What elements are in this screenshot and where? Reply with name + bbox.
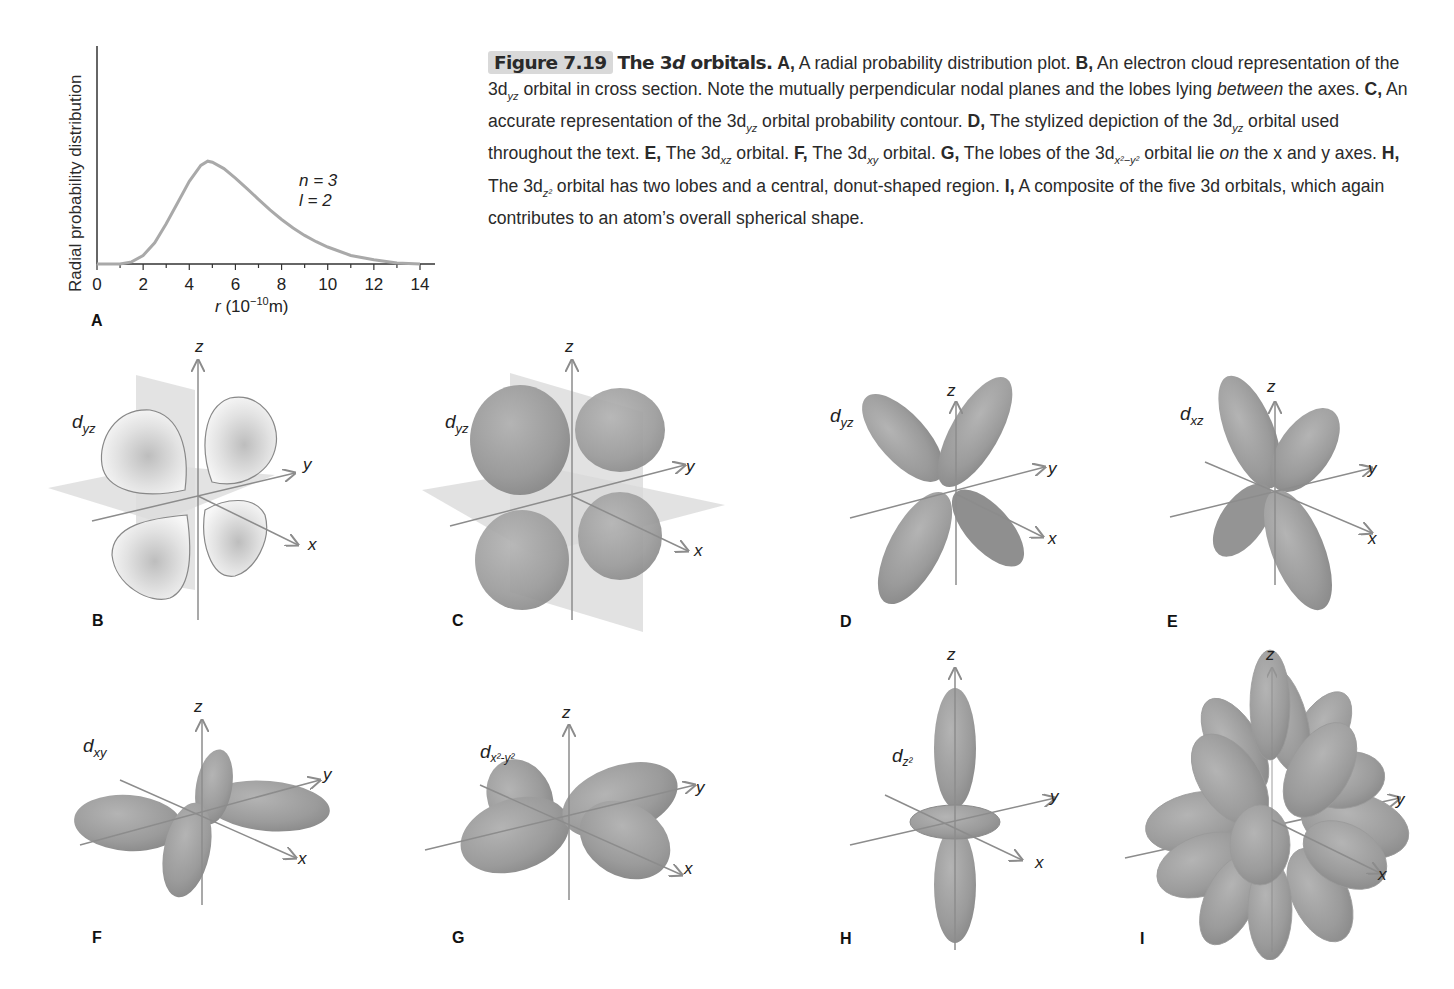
panel-label-a: A (91, 312, 103, 329)
panel-i-composite: z y x I (1120, 640, 1430, 960)
lobe-lower-right (204, 500, 267, 576)
y-axis-label: y (1049, 787, 1060, 806)
svg-text:14: 14 (411, 275, 430, 294)
panel-b-electron-cloud: z y x dyz B (40, 330, 400, 640)
z-axis-label: z (946, 645, 956, 664)
x-axis-label: x (307, 535, 317, 554)
panel-label-e: E (1167, 613, 1178, 630)
distribution-curve (97, 161, 420, 264)
svg-text:10: 10 (318, 275, 337, 294)
figure-number: Figure 7.19 (488, 51, 613, 74)
svg-text:0: 0 (92, 275, 101, 294)
panel-label-f: F (92, 929, 102, 946)
panel-h-dz2: z y x dz² H (820, 640, 1080, 960)
orbital-label: dz² (892, 745, 914, 769)
radial-distribution-chart: Radial probability distribution 02468101… (55, 40, 455, 330)
y-axis-label: y (1395, 790, 1406, 809)
caption-body: A, A radial probability distribution plo… (488, 53, 1408, 228)
z-axis-label: z (946, 381, 956, 400)
svg-text:2: 2 (138, 275, 147, 294)
lobe-lower-left (475, 510, 569, 610)
panel-label-g: G (452, 929, 464, 946)
svg-text:8: 8 (277, 275, 286, 294)
panel-e-dxz: z y x dxz E (1140, 370, 1420, 640)
z-axis-label: z (194, 337, 204, 356)
x-axis-label: x (1034, 853, 1044, 872)
panel-label-c: C (452, 612, 464, 629)
svg-text:4: 4 (185, 275, 194, 294)
lobe-left-front (451, 783, 580, 886)
lobe-lower-right (940, 478, 1037, 579)
orbital-label: dyz (830, 405, 854, 430)
annotation-n: n = 3 (299, 171, 338, 190)
panel-d-stylized-dyz: z y x dyz D (820, 370, 1080, 640)
x-axis-label: r (10−10m) (215, 295, 288, 316)
orbital-label: dxy (83, 735, 108, 760)
annotation-l: l = 2 (299, 191, 332, 210)
y-axis-label: y (1367, 459, 1378, 478)
figure-title: The 3d orbitals. (617, 52, 772, 73)
panel-label-i: I (1140, 930, 1144, 947)
x-axis-label: x (297, 849, 307, 868)
panel-label-d: D (840, 613, 852, 630)
x-axis-label: x (1047, 529, 1057, 548)
lobe-lower-left (112, 515, 190, 599)
lobe-upper-right (575, 388, 665, 472)
z-axis-label: z (193, 697, 203, 716)
figure-caption: Figure 7.19 The 3d orbitals. A, A radial… (488, 50, 1418, 232)
svg-text:6: 6 (231, 275, 240, 294)
z-axis-label: z (1266, 377, 1276, 396)
x-axis-label: x (1367, 529, 1377, 548)
panel-label-b: B (92, 612, 104, 629)
x-ticks: 02468101214 (92, 264, 429, 294)
panel-c-probability-contour: z y x dyz C (410, 330, 740, 640)
orbital-label: dyz (72, 411, 96, 436)
z-axis-label: z (564, 337, 574, 356)
y-axis-label: Radial probability distribution (66, 75, 85, 292)
x-axis-label: x (1377, 865, 1387, 884)
y-axis-label: y (302, 455, 313, 474)
panel-label-h: H (840, 930, 852, 947)
orbital-label: dx²-y² (480, 741, 516, 765)
orbital-label: dyz (445, 411, 469, 436)
y-axis-label: y (695, 778, 706, 797)
y-axis-label: y (322, 765, 333, 784)
x-axis-label: x (683, 859, 693, 878)
orbital-label: dxz (1180, 403, 1204, 428)
y-axis-label: y (685, 457, 696, 476)
panel-g-dx2-y2: z y x dx²-y² G (410, 690, 740, 950)
y-axis-label: y (1047, 459, 1058, 478)
z-axis-label: z (1265, 645, 1275, 664)
horizontal-nodal-plane (422, 468, 725, 555)
lobe-upper-left (470, 385, 570, 495)
z-axis-label: z (561, 703, 571, 722)
composite-lobes (1141, 650, 1417, 960)
lobe-upper-right (205, 397, 276, 484)
svg-text:12: 12 (364, 275, 383, 294)
panel-f-dxy: z y x dxy F (60, 690, 380, 950)
x-axis-label: x (693, 541, 703, 560)
